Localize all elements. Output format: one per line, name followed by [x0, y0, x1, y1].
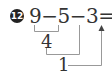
step-2-value: 1 [58, 56, 69, 74]
arrow-line [68, 30, 102, 66]
arrowhead-icon [99, 25, 105, 31]
decomposition-lines [0, 0, 112, 74]
step-1-value: 4 [41, 33, 52, 51]
